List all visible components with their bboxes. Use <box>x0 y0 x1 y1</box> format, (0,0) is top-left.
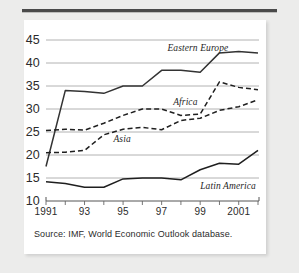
y-tick-label: 35 <box>14 79 40 93</box>
y-tick-label: 45 <box>14 33 40 47</box>
x-tick-label: 95 <box>109 206 137 217</box>
gridlines <box>46 40 259 178</box>
data-series-group <box>46 52 258 188</box>
x-tick-label: 2001 <box>225 206 253 217</box>
series-label-africa: Africa <box>173 97 197 107</box>
series-label-asia: Asia <box>113 134 130 144</box>
series-label-latin-america: Latin America <box>200 181 256 191</box>
series-label-eastern-europe: Eastern Europe <box>167 43 228 53</box>
x-tick-label: 99 <box>186 206 214 217</box>
x-tick-label: 1991 <box>32 206 60 217</box>
y-tick-label: 30 <box>14 102 40 116</box>
source-note: Source: IMF, World Economic Outlook data… <box>34 229 232 239</box>
y-tick-label: 25 <box>14 125 40 139</box>
x-tick-label: 93 <box>71 206 99 217</box>
series-line-africa <box>46 82 258 131</box>
figure-page: 1015202530354045 1991939597992001 Easter… <box>0 0 299 273</box>
y-tick-label: 40 <box>14 56 40 70</box>
x-tick-label: 97 <box>148 206 176 217</box>
axis-lines <box>46 197 259 201</box>
series-line-asia <box>46 100 258 153</box>
y-tick-label: 20 <box>14 148 40 162</box>
y-tick-label: 15 <box>14 171 40 185</box>
x-axis-ticks <box>46 201 258 205</box>
